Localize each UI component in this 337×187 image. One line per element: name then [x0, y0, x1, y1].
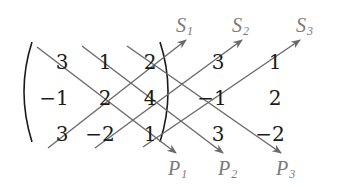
ext-r3c1: 3	[212, 122, 225, 146]
ext-r2c1: −1	[197, 86, 226, 110]
p2-label: P2	[217, 157, 237, 181]
entry-r3c1: 3	[56, 122, 69, 146]
entry-r3c3: 1	[144, 122, 157, 146]
ext-r2c2: 2	[269, 86, 282, 110]
s-labels: S1 S2 S3	[176, 14, 313, 38]
ext-r1c1: 3	[212, 50, 225, 74]
p3-label: P3	[275, 157, 295, 181]
p-labels: P1 P2 P3	[167, 157, 295, 181]
entry-r1c3: 2	[144, 50, 157, 74]
s2-label: S2	[232, 14, 249, 38]
entry-r2c1: −1	[39, 86, 68, 110]
s3-label: S3	[296, 14, 313, 38]
p1-label: P1	[167, 157, 187, 181]
entry-r1c1: 3	[56, 50, 69, 74]
sarrus-diagram: 3 1 2 −1 2 4 3 −2 1 3 1 −1 2 3 −2 S1 S2 …	[0, 0, 337, 187]
ext-r3c2: −2	[255, 122, 284, 146]
entry-r2c2: 2	[99, 86, 112, 110]
left-parenthesis	[24, 42, 32, 142]
s1-label: S1	[176, 14, 193, 38]
matrix-entries: 3 1 2 −1 2 4 3 −2 1	[39, 50, 156, 146]
entry-r1c2: 1	[99, 50, 112, 74]
entry-r2c3: 4	[144, 86, 157, 110]
extension-entries: 3 1 −1 2 3 −2	[197, 50, 284, 146]
entry-r3c2: −2	[85, 122, 114, 146]
ext-r1c2: 1	[269, 50, 282, 74]
